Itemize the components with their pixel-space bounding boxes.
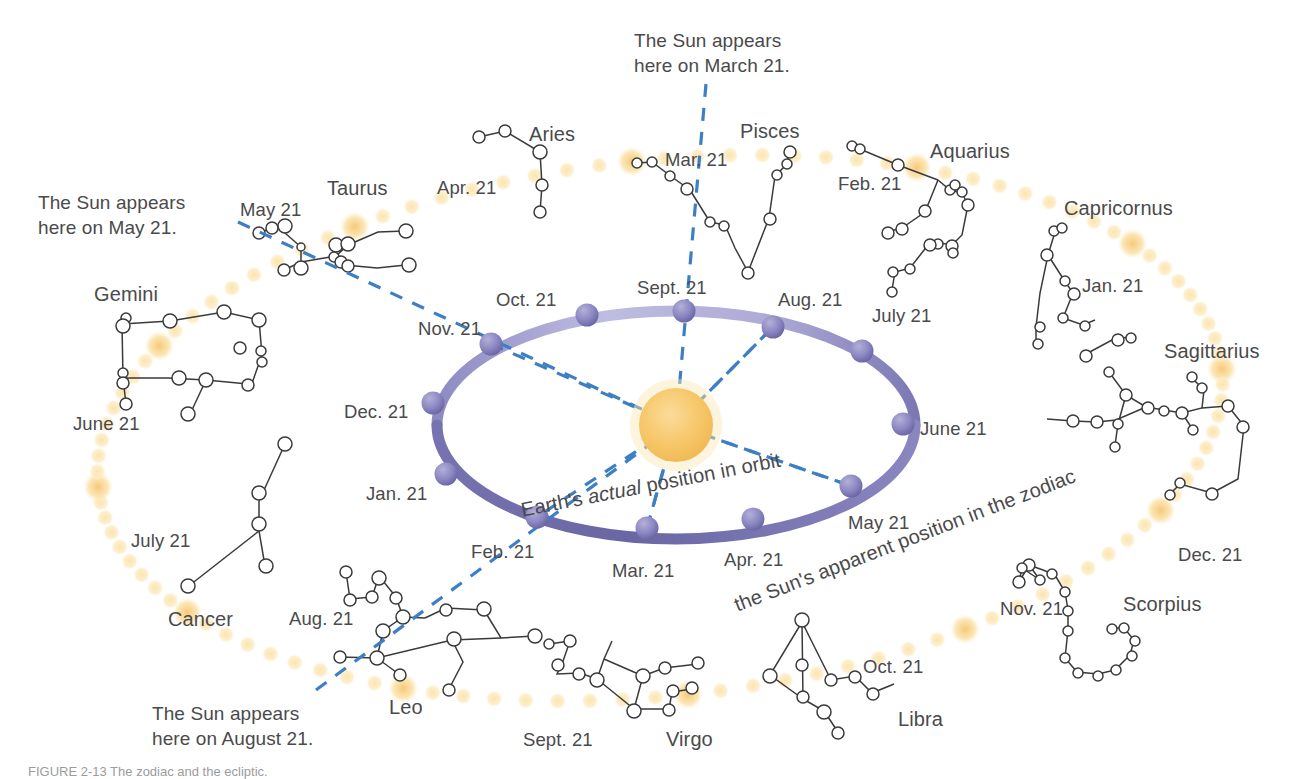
zodiac-diagram-canvas <box>0 0 1296 779</box>
zodiac-date-aug21: Aug. 21 <box>289 607 353 630</box>
constellation-label-taurus: Taurus <box>327 177 388 200</box>
constellation-label-scorpius: Scorpius <box>1123 593 1202 616</box>
ecliptic-dot <box>103 524 120 541</box>
orbit-date-nov21: Nov. 21 <box>418 317 481 340</box>
ecliptic-dot <box>549 693 566 710</box>
ecliptic-dot <box>517 692 534 709</box>
constellation-label-leo: Leo <box>389 696 423 719</box>
constellation-label-libra: Libra <box>898 708 943 731</box>
ecliptic-dot <box>929 631 946 648</box>
ecliptic-dot <box>558 162 575 179</box>
ecliptic-dot <box>312 662 329 679</box>
callout-may-line1: The Sun appears <box>38 190 185 215</box>
ecliptic-dot <box>403 198 420 215</box>
ecliptic-dot <box>754 147 771 164</box>
zodiac-date-jan21: Jan. 21 <box>1082 274 1143 297</box>
sightline-march <box>676 84 706 425</box>
ecliptic-dot <box>1079 559 1096 576</box>
ecliptic-dot <box>162 592 179 609</box>
ecliptic-dot <box>1141 247 1158 264</box>
zodiac-date-feb21: Feb. 21 <box>838 172 901 195</box>
orbit-date-dec21: Dec. 21 <box>344 400 408 423</box>
ecliptic-dot <box>1182 287 1199 304</box>
zodiac-date-sept21: Sept. 21 <box>523 728 593 751</box>
constellation-scorpius <box>1013 559 1140 681</box>
callout-august-line2: here on August 21. <box>152 726 313 751</box>
ecliptic-dot <box>1100 546 1117 563</box>
earth-sphere-aug21 <box>762 316 785 339</box>
ecliptic-dot <box>1017 185 1034 202</box>
ecliptic-dot <box>90 447 107 464</box>
earth-sphere-dec21 <box>422 392 445 415</box>
ecliptic-dot <box>374 208 391 225</box>
ecliptic-dot <box>286 654 303 671</box>
callout-may: The Sun appearshere on May 21. <box>38 190 185 240</box>
constellation-label-virgo: Virgo <box>666 728 713 751</box>
ecliptic-dot <box>495 174 512 191</box>
ecliptic-dot <box>965 170 982 187</box>
ecliptic-dot <box>647 689 664 706</box>
constellation-label-gemini: Gemini <box>94 283 158 306</box>
ecliptic-dot <box>1214 376 1231 393</box>
ecliptic-dot <box>984 610 1001 627</box>
sun-glyph <box>630 379 722 471</box>
ecliptic-sun-position <box>950 614 980 644</box>
orbit-date-mar21: Mar. 21 <box>612 559 674 582</box>
ecliptic-dot <box>1192 301 1209 318</box>
callout-march: The Sun appearshere on March 21. <box>634 28 790 78</box>
ecliptic-dot <box>745 677 762 694</box>
callout-august: The Sun appearshere on August 21. <box>152 701 313 751</box>
earth-sphere-oct21 <box>576 304 599 327</box>
orbit-date-june21: June 21 <box>920 417 987 440</box>
diagram-root: The Sun appearshere on May 21.The Sun ap… <box>0 0 1296 779</box>
ecliptic-dot <box>991 177 1008 194</box>
ecliptic-dot <box>1041 194 1058 211</box>
constellation-label-cancer: Cancer <box>168 608 233 631</box>
zodiac-date-oct21: Oct. 21 <box>863 655 923 678</box>
ecliptic-dot <box>582 692 599 709</box>
ecliptic-dot <box>1136 517 1153 534</box>
ecliptic-dot <box>1170 273 1187 290</box>
ecliptic-dot <box>239 636 256 653</box>
ecliptic-dot <box>203 293 220 310</box>
callout-march-line2: here on March 21. <box>634 53 790 78</box>
ecliptic-dot <box>1119 531 1136 548</box>
ecliptic-dot <box>366 675 383 692</box>
figure-caption: FIGURE 2-13 The zodiac and the ecliptic. <box>28 764 268 779</box>
zodiac-date-dec21: Dec. 21 <box>1178 543 1242 566</box>
zodiac-date-july21: July 21 <box>131 529 190 552</box>
zodiac-date-nov21: Nov. 21 <box>1000 597 1063 620</box>
orbit-date-july21: July 21 <box>872 304 931 327</box>
ecliptic-dot <box>89 463 106 480</box>
earth-sphere-may21 <box>840 475 863 498</box>
constellation-label-aries: Aries <box>529 123 575 146</box>
ecliptic-dot <box>1205 424 1222 441</box>
ecliptic-dot <box>712 682 729 699</box>
orbit-date-feb21: Feb. 21 <box>471 540 534 563</box>
ecliptic-dot <box>111 538 128 555</box>
zodiac-date-apr21: Apr. 21 <box>437 176 496 199</box>
ecliptic-dot <box>591 157 608 174</box>
callout-may-line2: here on May 21. <box>38 215 185 240</box>
earth-sphere-june21 <box>892 413 915 436</box>
ecliptic-dot <box>817 149 834 166</box>
ecliptic-dot <box>1200 315 1217 332</box>
earth-sphere-sept21 <box>673 300 696 323</box>
orbit-date-jan21: Jan. 21 <box>366 482 427 505</box>
zodiac-date-june21: June 21 <box>73 412 140 435</box>
ecliptic-dot <box>455 688 472 705</box>
orbit-date-apr21: Apr. 21 <box>724 548 783 571</box>
ecliptic-dot <box>1189 455 1206 472</box>
constellation-label-pisces: Pisces <box>740 120 800 143</box>
orbit-date-aug21: Aug. 21 <box>778 288 842 311</box>
constellation-label-aquarius: Aquarius <box>930 140 1010 163</box>
ecliptic-dot <box>262 645 279 662</box>
ecliptic-dot <box>133 566 150 583</box>
ecliptic-dot <box>224 280 241 297</box>
ecliptic-dot <box>246 266 263 283</box>
callout-march-line1: The Sun appears <box>634 28 790 53</box>
ecliptic-dot <box>424 684 441 701</box>
zodiac-date-may21: May 21 <box>240 198 301 221</box>
ecliptic-dot <box>147 579 164 596</box>
ecliptic-dot <box>1156 260 1173 277</box>
